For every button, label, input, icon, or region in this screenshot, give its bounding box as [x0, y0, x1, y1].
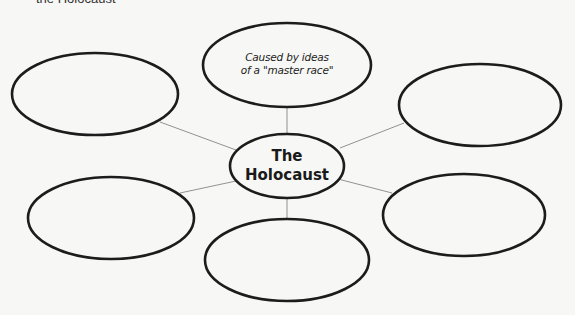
node-top-left — [12, 53, 178, 135]
node-bottom-right — [383, 174, 545, 256]
center-label-line2: Holocaust — [232, 166, 342, 185]
node-bottom — [205, 219, 369, 301]
center-label-line1: The — [232, 147, 342, 166]
connector-top-right — [340, 123, 404, 148]
connector-bottom-left — [180, 181, 236, 193]
connector-bottom-right — [338, 179, 392, 193]
center-label: The Holocaust — [232, 147, 342, 185]
node-top-right — [399, 64, 561, 146]
node-top-line2: of a "master race" — [207, 64, 367, 77]
connector-top-left — [160, 122, 236, 150]
node-top-text: Caused by ideas of a "master race" — [207, 51, 367, 77]
node-bottom-left — [28, 177, 194, 259]
node-top-line1: Caused by ideas — [207, 51, 367, 64]
